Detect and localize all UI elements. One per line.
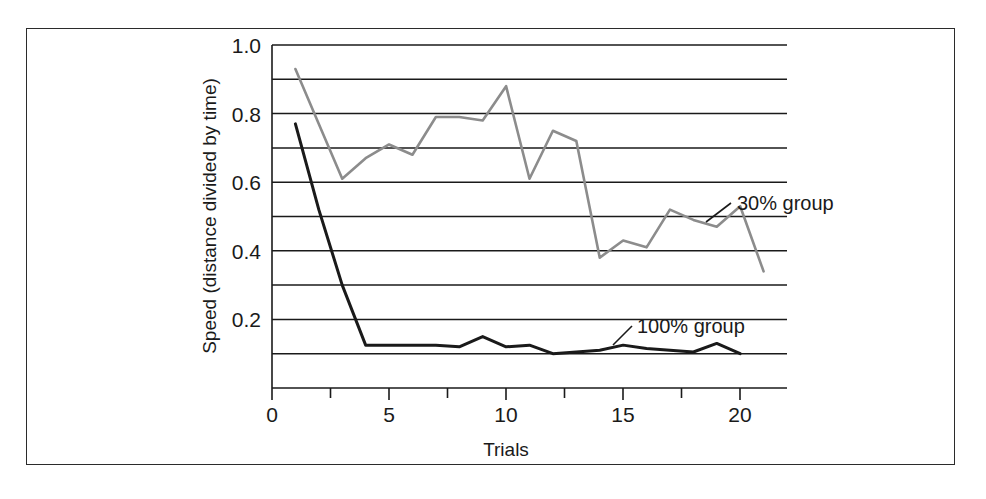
- y-gridlines: [272, 79, 787, 353]
- y-axis-title: Speed (distance divided by time): [199, 78, 220, 354]
- x-axis-ticks: [272, 388, 740, 400]
- y-axis-tick-labels: 1.0 0.8 0.6 0.4 0.2: [232, 34, 262, 331]
- x-tick-label-15: 15: [611, 403, 634, 426]
- y-tick-label-0-2: 0.2: [232, 308, 261, 331]
- y-tick-label-0-6: 0.6: [232, 171, 261, 194]
- y-tick-label-0-4: 0.4: [232, 240, 262, 263]
- x-tick-label-20: 20: [728, 403, 751, 426]
- x-tick-label-5: 5: [383, 403, 395, 426]
- annotation-30-percent-group: 30% group: [737, 192, 834, 214]
- y-tick-label-0-8: 0.8: [232, 103, 261, 126]
- x-axis-tick-labels: 0 5 10 15 20: [266, 403, 752, 426]
- y-tick-label-1-0: 1.0: [232, 34, 261, 57]
- x-tick-label-0: 0: [266, 403, 278, 426]
- leader-line-100-percent-group: [613, 326, 632, 345]
- annotation-100-percent-group: 100% group: [637, 315, 745, 337]
- series-line-30-percent-group: [295, 69, 763, 271]
- x-tick-label-10: 10: [494, 403, 517, 426]
- x-axis-title: Trials: [483, 439, 529, 460]
- speed-vs-trials-line-chart: 1.0 0.8 0.6 0.4 0.2 0 5 10 15 20 Trials …: [0, 0, 986, 499]
